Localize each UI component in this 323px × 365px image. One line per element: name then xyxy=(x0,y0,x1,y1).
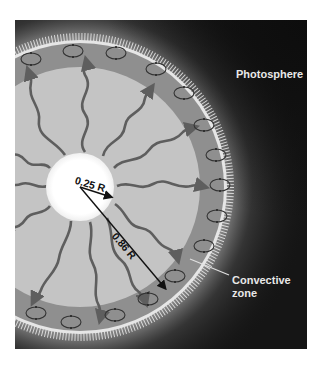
convective-zone-label-line2: zone xyxy=(232,287,291,300)
convective-zone-label: Convective zone xyxy=(232,274,291,300)
sun-diagram-panel: 0.25 R 0.86 R Photosphere Convective zon… xyxy=(15,20,307,349)
photosphere-label: Photosphere xyxy=(236,68,303,81)
convective-zone-label-line1: Convective xyxy=(232,274,291,287)
